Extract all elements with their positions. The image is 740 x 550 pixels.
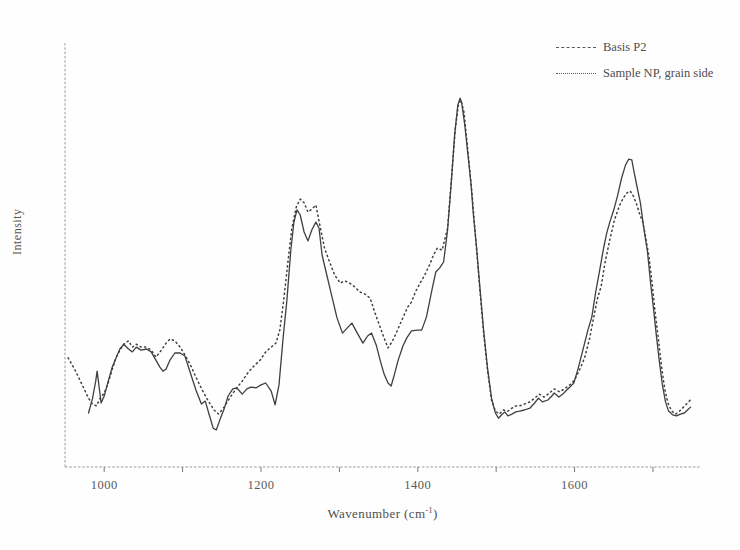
tick-label: 1200 — [247, 478, 274, 492]
x-axis-label-superscript: -1 — [425, 506, 432, 515]
tick-label: 1600 — [561, 478, 588, 492]
series-lines — [68, 98, 691, 430]
legend-label-basis-p2: Basis P2 — [603, 40, 646, 55]
x-axis-label: Wavenumber (cm-1) — [65, 506, 700, 522]
legend-label-sample-np: Sample NP, grain side — [603, 66, 713, 81]
x-axis-ticks: 1000120014001600 — [91, 467, 653, 492]
tick-label: 1400 — [404, 478, 431, 492]
series-line-0 — [89, 98, 691, 430]
dashed-line-sample-icon — [556, 47, 596, 48]
dotted-line-sample-icon — [556, 73, 596, 74]
x-axis-label-close: ) — [433, 506, 438, 521]
legend-item-sample-np: Sample NP, grain side — [556, 60, 713, 86]
legend: Basis P2 Sample NP, grain side — [556, 34, 713, 86]
series-line-1 — [68, 100, 691, 414]
legend-item-basis-p2: Basis P2 — [556, 34, 713, 60]
x-axis-label-text: Wavenumber (cm — [327, 506, 425, 521]
spectrum-figure: Intensity 1000120014001600 Wavenumber (c… — [0, 0, 740, 550]
tick-label: 1000 — [91, 478, 118, 492]
